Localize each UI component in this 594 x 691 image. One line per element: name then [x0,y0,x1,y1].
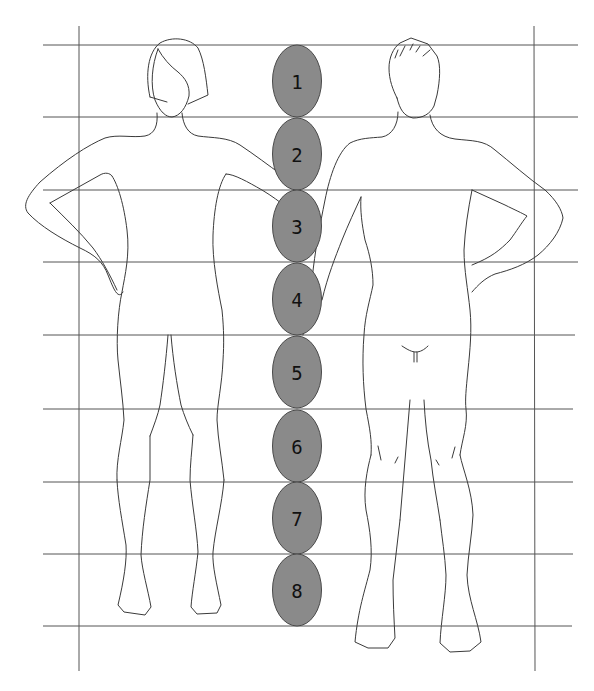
head-unit-2: 2 [273,118,322,190]
head-unit-5: 5 [273,336,322,408]
male-right-shoulder-arm [430,115,563,292]
head-unit-label: 6 [291,436,302,458]
head-unit-8: 8 [273,554,322,626]
head-unit-6: 6 [273,410,322,482]
female-inner-legs [150,335,193,436]
head-unit-label: 5 [291,362,302,384]
head-unit-4: 4 [273,263,322,335]
female-left-inner-forearm [50,203,117,290]
male-crotch [402,346,428,362]
head-unit-label: 8 [291,580,302,602]
female-left-arm [26,113,158,295]
female-torso-right [213,174,226,480]
male-left-leg [355,455,400,648]
male-torso-left [361,197,373,455]
female-left-leg-lower [117,436,151,615]
male-inner-legs [400,400,440,520]
male-head [389,38,440,118]
female-right-arm [182,113,282,175]
male-right-inner-arm [472,190,527,265]
head-unit-label: 1 [291,71,302,93]
female-right-leg-lower [190,435,224,614]
male-figure [303,38,563,652]
head-unit-7: 7 [273,482,322,554]
head-unit-label: 7 [291,508,302,530]
male-hair-strands [395,44,430,58]
male-left-arm-inner [322,197,361,300]
grid-line-v-right [534,26,535,671]
proportion-diagram: 1 2 3 4 5 6 7 8 [0,0,594,691]
female-figure [26,39,286,615]
female-torso-left [112,176,128,480]
male-knee-marks [378,446,455,465]
male-torso-right [460,190,472,455]
female-face [152,49,189,117]
head-unit-label: 4 [291,289,302,311]
head-unit-1: 1 [273,45,322,117]
head-unit-label: 3 [291,216,302,238]
female-left-arm-inner [50,173,112,203]
head-unit-label: 2 [291,144,302,166]
head-unit-3: 3 [273,190,322,262]
